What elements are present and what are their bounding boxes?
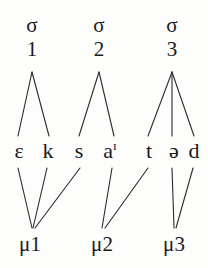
- segment-node-1: ɛ: [14, 140, 23, 162]
- syllable-index-label: 1: [26, 37, 37, 61]
- syllable-node-2: σ2: [93, 14, 104, 61]
- syllable-edge-6: [172, 72, 194, 136]
- segment-symbol: t: [146, 138, 152, 163]
- segment-node-6: ə: [169, 140, 179, 162]
- segment-symbol: d: [189, 138, 200, 163]
- syllable-edge-3: [99, 72, 114, 136]
- segment-offglide: ɪ: [113, 138, 117, 153]
- segment-symbol: k: [43, 138, 54, 163]
- segment-node-2: k: [43, 140, 54, 162]
- sigma-glyph: σ: [166, 14, 177, 36]
- syllable-edge-2: [79, 72, 99, 136]
- mora-edge-1: [33, 168, 47, 228]
- segment-symbol: ə: [169, 138, 179, 163]
- syllable-node-1: σ1: [26, 14, 37, 61]
- sigma-glyph: σ: [93, 14, 104, 36]
- mora-edge-6: [176, 168, 193, 228]
- segment-node-5: t: [146, 140, 152, 162]
- mora-edge-0: [18, 168, 32, 228]
- mora-node-2: μ2: [91, 234, 113, 255]
- mora-node-3: μ3: [163, 234, 185, 255]
- segment-symbol: a: [103, 138, 113, 163]
- syllable-index-label: 3: [166, 37, 177, 61]
- mora-edge-5: [172, 168, 174, 228]
- mora-edge-3: [102, 168, 112, 228]
- syllable-edge-group: [18, 72, 194, 136]
- syllable-edge-0: [18, 72, 32, 136]
- syllable-edge-1: [32, 72, 49, 136]
- prosodic-tree-diagram: σ1σ2σ3 ɛksaɪtəd μ1μ2μ3: [0, 0, 208, 268]
- segment-symbol: ɛ: [14, 138, 23, 163]
- syllable-node-3: σ3: [166, 14, 177, 61]
- mora-node-1: μ1: [19, 234, 41, 255]
- segment-node-4: aɪ: [103, 140, 116, 162]
- segment-node-3: s: [75, 140, 84, 162]
- mora-edge-4: [105, 168, 148, 228]
- segment-symbol: s: [75, 138, 84, 163]
- mora-edge-group: [18, 168, 193, 228]
- syllable-edge-4: [148, 72, 172, 136]
- syllable-index-label: 2: [93, 37, 104, 61]
- mora-edge-2: [35, 168, 80, 228]
- segment-node-7: d: [189, 140, 200, 162]
- sigma-glyph: σ: [26, 14, 37, 36]
